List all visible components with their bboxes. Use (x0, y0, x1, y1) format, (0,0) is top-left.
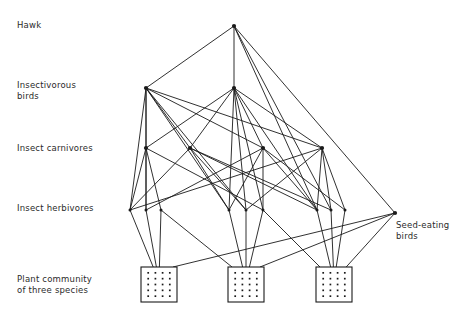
plant-community-box (141, 267, 177, 302)
food-web-node (145, 209, 148, 212)
food-web-edge (234, 88, 322, 148)
plant-stipple-dot (337, 284, 339, 286)
food-web-node (232, 24, 236, 28)
plant-stipple-dot (330, 295, 332, 297)
plant-stipple-dot (147, 295, 149, 297)
food-web-edge (263, 148, 345, 210)
food-web-edge (190, 148, 246, 210)
plant-stipple-dot (330, 289, 332, 291)
plant-stipple-dot (322, 284, 324, 286)
food-web-edge (146, 26, 234, 88)
plant-stipple-dot (249, 284, 251, 286)
food-web-edge (234, 88, 317, 210)
food-web-node (330, 209, 333, 212)
plant-stipple-dot (234, 295, 236, 297)
plant-stipple-dot (330, 278, 332, 280)
plant-stipple-dot (249, 289, 251, 291)
label-insectivorous-birds: Insectivorous birds (17, 80, 76, 102)
plant-stipple-dot (162, 284, 164, 286)
plant-stipple-dot (322, 289, 324, 291)
food-web-edge (317, 148, 322, 210)
plant-stipple-dot (242, 284, 244, 286)
food-web-node (320, 146, 324, 150)
plant-community-box (228, 267, 264, 302)
plant-stipple-dot (155, 278, 157, 280)
label-insect-carnivores: Insect carnivores (17, 143, 93, 154)
plant-stipple-dot (169, 284, 171, 286)
food-web-node (316, 209, 319, 212)
plant-stipple-dot (147, 278, 149, 280)
food-web-node (188, 146, 192, 150)
food-web-edge (130, 210, 153, 267)
plant-stipple-dot (234, 289, 236, 291)
label-plant-community: Plant community of three species (17, 274, 92, 296)
plant-stipple-dot (337, 278, 339, 280)
food-web-edge (229, 210, 243, 267)
food-web-node (245, 209, 248, 212)
food-web-edge (130, 148, 322, 210)
food-web-node (261, 146, 265, 150)
food-web-edge (146, 88, 246, 210)
plant-stipple-dot (256, 289, 258, 291)
food-web-edge (159, 210, 161, 267)
plant-stipple-dot (322, 272, 324, 274)
plant-stipple-dot (256, 278, 258, 280)
plant-stipple-dot (330, 272, 332, 274)
food-web-edge (173, 213, 395, 267)
food-web-edge (146, 88, 263, 148)
plant-stipple-dot (344, 278, 346, 280)
plant-stipple-dot (162, 272, 164, 274)
food-web-node (232, 86, 236, 90)
food-web-edge (234, 26, 395, 213)
food-web-node (262, 209, 265, 212)
plant-community-box (316, 267, 352, 302)
food-web-edge (161, 210, 232, 267)
food-web-edge (234, 88, 263, 148)
plant-stipple-dot (242, 295, 244, 297)
plant-stipple-dot (155, 272, 157, 274)
food-web-edge (322, 148, 345, 210)
plant-stipple-dot (169, 278, 171, 280)
plant-stipple-dot (256, 272, 258, 274)
plant-stipple-dot (330, 284, 332, 286)
plant-stipple-dot (155, 284, 157, 286)
food-web-node (393, 211, 397, 215)
food-web-graph (0, 0, 461, 315)
label-hawk: Hawk (17, 20, 41, 31)
plant-stipple-dot (256, 284, 258, 286)
plant-stipple-dot (249, 295, 251, 297)
plant-stipple-dot (337, 272, 339, 274)
plant-stipple-dot (147, 272, 149, 274)
label-insect-herbivores: Insect herbivores (17, 203, 94, 214)
food-web-edge (130, 88, 146, 210)
food-web-node (160, 209, 163, 212)
plant-stipple-dot (234, 272, 236, 274)
food-web-edge (260, 213, 395, 267)
food-web-node (344, 209, 347, 212)
plant-stipple-dot (147, 284, 149, 286)
plant-stipple-dot (337, 295, 339, 297)
plant-stipple-dot (249, 278, 251, 280)
plant-stipple-dot (234, 284, 236, 286)
plant-stipple-dot (147, 289, 149, 291)
plant-stipple-dot (344, 284, 346, 286)
plant-stipple-dot (162, 289, 164, 291)
plant-stipple-dot (344, 295, 346, 297)
plant-stipple-dot (322, 295, 324, 297)
food-web-edge (234, 26, 317, 210)
food-web-edge (234, 88, 246, 210)
food-web-node (129, 209, 132, 212)
food-web-edge (346, 213, 395, 267)
food-web-edge (146, 210, 156, 267)
plant-stipple-dot (242, 278, 244, 280)
plant-stipple-dot (256, 295, 258, 297)
food-web-edge (190, 88, 234, 148)
plant-stipple-dot (169, 289, 171, 291)
plant-stipple-dot (242, 289, 244, 291)
food-web-edge (130, 148, 146, 210)
food-web-edge (263, 148, 317, 210)
food-web-edge (234, 88, 263, 210)
food-web-node (144, 146, 148, 150)
plant-stipple-dot (322, 278, 324, 280)
food-web-edge (249, 210, 263, 267)
